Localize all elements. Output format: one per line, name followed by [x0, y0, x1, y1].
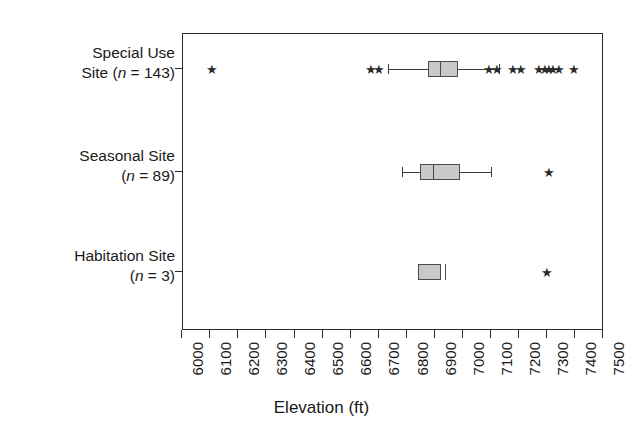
x-axis-tick-label: 6200	[245, 342, 262, 375]
whisker-lower	[403, 172, 420, 173]
x-axis-tick	[490, 330, 491, 338]
label-variable: n	[135, 267, 144, 284]
outlier-star-marker: ★	[206, 63, 218, 76]
outlier-star-marker: ★	[568, 63, 580, 76]
y-axis-tick	[175, 271, 183, 272]
box-iqr	[418, 264, 441, 280]
x-axis-tick	[237, 330, 238, 338]
median-line	[440, 61, 441, 77]
x-axis-tick	[518, 330, 519, 338]
category-label-special-use-site: Special Use Site (n = 143)	[5, 43, 175, 83]
label-suffix: = 143)	[126, 64, 175, 81]
outlier-star-marker: ★	[553, 63, 565, 76]
outlier-star-marker: ★	[543, 166, 555, 179]
x-axis-tick-label: 7100	[498, 342, 515, 375]
y-axis-tick	[175, 68, 183, 69]
label-suffix: = 89)	[135, 167, 175, 184]
y-axis-tick	[175, 171, 183, 172]
whisker-cap-lower	[402, 167, 403, 177]
median-line	[433, 164, 434, 180]
outlier-star-marker: ★	[515, 63, 527, 76]
outlier-star-marker: ★	[541, 266, 553, 279]
whisker-cap-lower	[388, 64, 389, 74]
x-axis-tick-label: 6900	[442, 342, 459, 375]
median-line	[445, 264, 446, 280]
x-axis-tick-label: 7500	[610, 342, 627, 375]
x-axis-tick	[322, 330, 323, 338]
x-axis-tick-label: 6400	[301, 342, 318, 375]
category-label-habitation-site: Habitation Site (n = 3)	[5, 246, 175, 286]
label-prefix: Site (	[82, 64, 118, 81]
x-axis-tick	[602, 330, 603, 338]
category-label-line2: Site (n = 143)	[5, 63, 175, 83]
x-axis-tick	[462, 330, 463, 338]
x-axis-tick-label: 6700	[385, 342, 402, 375]
x-axis-tick-label: 6100	[217, 342, 234, 375]
category-label-line1: Special Use	[5, 43, 175, 63]
label-variable: n	[126, 167, 135, 184]
x-axis-title: Elevation (ft)	[0, 398, 643, 418]
x-axis-tick-label: 6800	[414, 342, 431, 375]
x-axis-tick-label: 7200	[526, 342, 543, 375]
plot-area	[182, 33, 603, 330]
category-label-seasonal-site: Seasonal Site (n = 89)	[5, 146, 175, 186]
x-axis-tick-label: 6300	[273, 342, 290, 375]
outlier-star-marker: ★	[373, 63, 385, 76]
boxplot-figure: Special Use Site (n = 143) Seasonal Site…	[0, 0, 643, 434]
x-axis-tick-label: 7300	[554, 342, 571, 375]
label-suffix: = 3)	[144, 267, 175, 284]
box-iqr	[420, 164, 460, 180]
x-axis-tick	[546, 330, 547, 338]
x-axis-tick	[378, 330, 379, 338]
outlier-star-marker: ★	[491, 63, 503, 76]
x-axis-tick	[434, 330, 435, 338]
box-iqr	[428, 61, 458, 77]
whisker-upper	[460, 172, 492, 173]
category-label-line2: (n = 3)	[5, 266, 175, 286]
x-axis-tick-label: 6600	[357, 342, 374, 375]
x-axis-tick	[406, 330, 407, 338]
category-label-line2: (n = 89)	[5, 166, 175, 186]
x-axis-tick	[294, 330, 295, 338]
whisker-cap-upper	[491, 167, 492, 177]
x-axis-tick	[265, 330, 266, 338]
whisker-lower	[388, 69, 428, 70]
x-axis-tick-label: 6500	[329, 342, 346, 375]
x-axis-tick-label: 6000	[189, 342, 206, 375]
x-axis-tick-label: 7000	[470, 342, 487, 375]
x-axis-tick	[209, 330, 210, 338]
x-axis-tick	[181, 330, 182, 338]
category-label-line1: Seasonal Site	[5, 146, 175, 166]
x-axis-tick	[350, 330, 351, 338]
x-axis-tick	[574, 330, 575, 338]
category-label-line1: Habitation Site	[5, 246, 175, 266]
x-axis-tick-label: 7400	[582, 342, 599, 375]
